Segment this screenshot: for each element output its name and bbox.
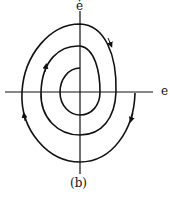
y-axis-label: ė (76, 0, 83, 13)
phase-plane-svg (0, 0, 170, 198)
arrow-icon (108, 38, 111, 45)
spiral-trajectory (22, 24, 135, 162)
caption: (b) (70, 176, 87, 190)
x-axis-label: e (161, 84, 168, 98)
phase-plane-diagram: ė e (b) (0, 0, 170, 198)
arrow-icon (45, 66, 46, 72)
